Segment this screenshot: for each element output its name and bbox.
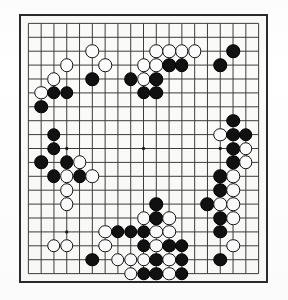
go-stone-black[interactable] — [226, 142, 240, 156]
go-stone-white[interactable] — [239, 142, 253, 156]
go-stone-black[interactable] — [201, 197, 215, 211]
go-stone-white[interactable] — [98, 225, 112, 239]
go-stone-black[interactable] — [162, 239, 176, 253]
go-stone-black[interactable] — [150, 86, 164, 100]
stone-layer[interactable] — [21, 16, 266, 281]
go-stone-white[interactable] — [60, 58, 74, 72]
go-stone-white[interactable] — [137, 58, 151, 72]
screenshot-canvas — [0, 0, 288, 300]
go-stone-white[interactable] — [124, 253, 138, 267]
go-stone-white[interactable] — [86, 170, 100, 184]
go-stone-black[interactable] — [34, 100, 48, 114]
go-stone-white[interactable] — [60, 183, 74, 197]
go-board-inner — [21, 16, 266, 281]
go-stone-black[interactable] — [137, 225, 151, 239]
go-stone-white[interactable] — [60, 197, 74, 211]
go-stone-black[interactable] — [213, 183, 227, 197]
go-stone-white[interactable] — [98, 58, 112, 72]
go-board[interactable] — [19, 14, 268, 283]
go-stone-white[interactable] — [150, 239, 164, 253]
go-stone-black[interactable] — [86, 253, 100, 267]
go-stone-black[interactable] — [175, 253, 189, 267]
go-stone-black[interactable] — [47, 170, 61, 184]
go-stone-black[interactable] — [137, 86, 151, 100]
go-stone-black[interactable] — [150, 72, 164, 86]
go-stone-white[interactable] — [137, 253, 151, 267]
go-stone-white[interactable] — [226, 211, 240, 225]
go-stone-white[interactable] — [226, 183, 240, 197]
go-stone-white[interactable] — [34, 86, 48, 100]
go-stone-black[interactable] — [226, 44, 240, 58]
go-stone-black[interactable] — [137, 267, 151, 281]
go-stone-black[interactable] — [150, 211, 164, 225]
go-stone-black[interactable] — [213, 170, 227, 184]
go-stone-white[interactable] — [213, 197, 227, 211]
go-stone-white[interactable] — [162, 211, 176, 225]
go-stone-black[interactable] — [239, 128, 253, 142]
go-stone-black[interactable] — [60, 86, 74, 100]
go-stone-black[interactable] — [150, 267, 164, 281]
go-stone-black[interactable] — [47, 128, 61, 142]
go-stone-black[interactable] — [150, 253, 164, 267]
go-stone-black[interactable] — [226, 156, 240, 170]
go-stone-white[interactable] — [86, 44, 100, 58]
go-stone-white[interactable] — [162, 267, 176, 281]
go-stone-black[interactable] — [226, 128, 240, 142]
go-stone-white[interactable] — [150, 225, 164, 239]
go-stone-black[interactable] — [86, 72, 100, 86]
go-stone-black[interactable] — [73, 170, 87, 184]
go-stone-black[interactable] — [124, 72, 138, 86]
go-stone-black[interactable] — [175, 239, 189, 253]
go-stone-white[interactable] — [47, 239, 61, 253]
go-stone-black[interactable] — [34, 156, 48, 170]
go-stone-white[interactable] — [213, 128, 227, 142]
go-stone-white[interactable] — [73, 156, 87, 170]
go-stone-white[interactable] — [124, 267, 138, 281]
go-stone-white[interactable] — [111, 253, 125, 267]
go-stone-black[interactable] — [175, 267, 189, 281]
go-stone-white[interactable] — [188, 44, 202, 58]
go-stone-black[interactable] — [124, 225, 138, 239]
go-stone-white[interactable] — [226, 170, 240, 184]
go-stone-white[interactable] — [60, 170, 74, 184]
go-stone-white[interactable] — [137, 211, 151, 225]
go-stone-white[interactable] — [137, 72, 151, 86]
go-stone-white[interactable] — [162, 253, 176, 267]
go-stone-black[interactable] — [175, 58, 189, 72]
go-stone-black[interactable] — [162, 58, 176, 72]
go-stone-white[interactable] — [226, 197, 240, 211]
go-stone-black[interactable] — [47, 86, 61, 100]
go-stone-white[interactable] — [239, 156, 253, 170]
go-stone-white[interactable] — [162, 44, 176, 58]
go-stone-black[interactable] — [150, 197, 164, 211]
go-stone-white[interactable] — [175, 44, 189, 58]
go-stone-white[interactable] — [226, 239, 240, 253]
go-stone-black[interactable] — [213, 225, 227, 239]
go-stone-white[interactable] — [162, 225, 176, 239]
go-stone-black[interactable] — [111, 225, 125, 239]
go-stone-white[interactable] — [47, 72, 61, 86]
go-stone-black[interactable] — [213, 253, 227, 267]
go-stone-black[interactable] — [60, 156, 74, 170]
go-stone-black[interactable] — [213, 58, 227, 72]
go-stone-black[interactable] — [137, 239, 151, 253]
go-stone-white[interactable] — [60, 239, 74, 253]
go-stone-white[interactable] — [150, 44, 164, 58]
go-stone-black[interactable] — [47, 142, 61, 156]
go-stone-black[interactable] — [226, 114, 240, 128]
go-stone-white[interactable] — [98, 239, 112, 253]
go-stone-white[interactable] — [150, 58, 164, 72]
go-stone-black[interactable] — [213, 211, 227, 225]
